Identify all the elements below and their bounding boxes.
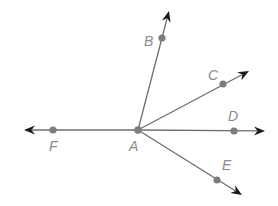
vertex-point-a	[134, 126, 142, 134]
ray-ab	[138, 11, 171, 130]
point-d	[230, 127, 237, 134]
point-c	[219, 80, 226, 87]
point-b	[158, 34, 165, 41]
ray-af	[24, 126, 138, 135]
point-label-b: B	[144, 33, 153, 49]
point-label-f: F	[49, 138, 59, 154]
point-e	[213, 176, 220, 183]
ray-ad	[138, 126, 265, 135]
arrowhead-icon	[237, 71, 249, 80]
ray-line-e	[138, 130, 235, 191]
labels-layer: A BCDEF	[49, 33, 238, 173]
ray-line-d	[138, 130, 257, 131]
point-label-e: E	[222, 157, 232, 173]
point-f	[49, 126, 56, 133]
ray-diagram: A BCDEF	[0, 0, 278, 206]
vertex-label-a: A	[128, 138, 138, 154]
arrowhead-icon	[230, 185, 242, 195]
point-label-d: D	[228, 108, 238, 124]
point-label-c: C	[208, 67, 219, 83]
